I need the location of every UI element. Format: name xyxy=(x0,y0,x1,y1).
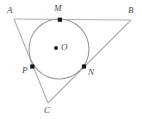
segment-bc xyxy=(48,20,131,103)
point-label-o: O xyxy=(61,43,68,52)
point-label-m: M xyxy=(54,4,62,13)
tangent-point-m-marker xyxy=(58,18,62,22)
point-label-b: B xyxy=(128,6,134,15)
point-label-p: P xyxy=(22,66,28,75)
tangent-point-n-marker xyxy=(82,64,86,68)
segment-ab xyxy=(14,19,131,20)
geometry-canvas xyxy=(0,0,142,119)
point-label-c: C xyxy=(44,106,50,115)
tangent-point-p-marker xyxy=(30,64,34,68)
inscribed-circle xyxy=(29,19,89,79)
center-point-o-marker xyxy=(54,46,58,50)
point-label-a: A xyxy=(7,6,13,15)
geometry-figure: A B C M N P O xyxy=(0,0,142,119)
point-label-n: N xyxy=(88,68,94,77)
